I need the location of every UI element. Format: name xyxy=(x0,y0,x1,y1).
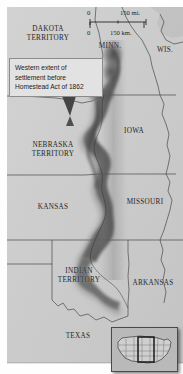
map-canvas xyxy=(0,0,183,374)
scale-miles-zero: 0 xyxy=(87,9,90,16)
settlement-extent-callout: Western extent of settlement before Home… xyxy=(9,58,103,97)
scale-km-max: 150 km. xyxy=(110,29,132,36)
scale-bar: 0 150 mi. 0 150 km. xyxy=(88,9,152,39)
inset-svg xyxy=(112,328,177,371)
scale-miles-max: 150 mi. xyxy=(120,9,140,16)
scale-km-zero: 0 xyxy=(87,29,90,36)
united-states-locator-inset xyxy=(111,327,178,372)
callout-text: Western extent of settlement before Home… xyxy=(15,63,98,92)
historical-map-figure: 0 150 mi. 0 150 km. Western extent of se… xyxy=(0,0,183,374)
